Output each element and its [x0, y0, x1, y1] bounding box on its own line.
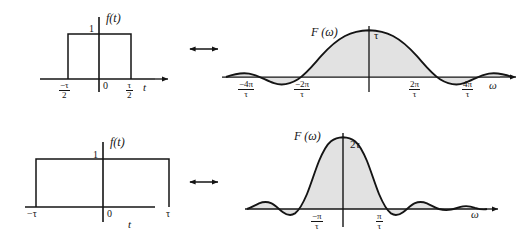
- tick-label-pos-tau-over-2: τ 2: [126, 81, 133, 100]
- frac-numerator: 2π: [409, 80, 420, 89]
- frac-denominator: 2: [126, 90, 133, 100]
- frac-numerator: τ: [126, 81, 133, 90]
- tick-label-neg-tau-over-2: −τ 2: [59, 81, 70, 100]
- frac-numerator: −τ: [59, 81, 70, 90]
- frac-denominator: τ: [294, 89, 310, 99]
- frac-numerator: −π: [311, 212, 323, 221]
- omega-axis-label-row-1: ω: [489, 80, 497, 91]
- x-axis-label-row-1: t: [143, 82, 146, 93]
- time-function-label-row-1: f(t): [106, 12, 121, 24]
- freq-function-label-row-1: F (ω): [311, 26, 338, 38]
- peak-label-row-1: τ: [374, 30, 378, 41]
- peak-label-row-2: 2τ: [350, 139, 360, 150]
- frac-numerator: −2π: [294, 80, 310, 89]
- frac-numerator: −4π: [238, 80, 254, 89]
- tick-label-neg-2pi-over-tau: −2π τ: [294, 80, 310, 99]
- frac-denominator: τ: [409, 89, 420, 99]
- amplitude-label-row-2: 1: [93, 150, 98, 160]
- frac-denominator: τ: [238, 89, 254, 99]
- frac-numerator: 4π: [462, 80, 473, 89]
- spectrum-shaded-area: [247, 137, 487, 215]
- amplitude-label-row-1: 1: [89, 24, 94, 34]
- freq-function-label-row-2: F (ω): [294, 130, 321, 142]
- frac-denominator: 2: [59, 90, 70, 100]
- tick-label-pos-pi-over-tau: π τ: [376, 212, 383, 231]
- omega-axis-label-row-2: ω: [471, 209, 479, 220]
- frac-denominator: τ: [311, 221, 323, 231]
- x-axis-label-row-2: t: [128, 219, 131, 230]
- tick-label-neg-tau: −τ: [27, 209, 37, 219]
- frac-numerator: π: [376, 212, 383, 221]
- tick-label-pos-tau: τ: [166, 209, 170, 219]
- fourier-transform-pair-figure: [0, 0, 532, 250]
- time-function-label-row-2: f(t): [110, 136, 125, 148]
- chart-bottom-right-spectrum: [245, 133, 498, 227]
- tick-label-pos-4pi-over-tau: 4π τ: [462, 80, 473, 99]
- tick-label-neg-4pi-over-tau: −4π τ: [238, 80, 254, 99]
- origin-label-row-2: 0: [107, 209, 112, 219]
- frac-denominator: τ: [462, 89, 473, 99]
- origin-label-row-1: 0: [103, 81, 108, 91]
- tick-label-neg-pi-over-tau: −π τ: [311, 212, 323, 231]
- tick-label-pos-2pi-over-tau: 2π τ: [409, 80, 420, 99]
- frac-denominator: τ: [376, 221, 383, 231]
